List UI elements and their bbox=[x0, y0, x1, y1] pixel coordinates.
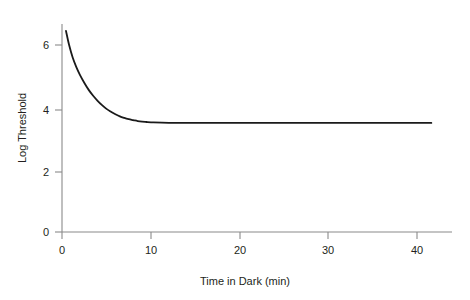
y-tick-label-4: 4 bbox=[43, 104, 49, 116]
chart-figure: 6 4 2 0 0 10 20 30 40 Time in Dark (min)… bbox=[0, 0, 470, 300]
x-axis-title: Time in Dark (min) bbox=[200, 275, 290, 287]
x-tick-label-30: 30 bbox=[322, 244, 334, 256]
x-tick-label-20: 20 bbox=[234, 244, 246, 256]
x-tick-label-10: 10 bbox=[145, 244, 157, 256]
y-axis-title: Log Threshold bbox=[16, 93, 28, 163]
dark-adaptation-line-chart: 6 4 2 0 0 10 20 30 40 Time in Dark (min)… bbox=[0, 0, 470, 300]
y-tick-label-6: 6 bbox=[43, 39, 49, 51]
y-axis-ticks bbox=[55, 45, 62, 232]
y-tick-label-0: 0 bbox=[43, 226, 49, 238]
x-axis-ticks bbox=[62, 232, 417, 239]
y-tick-label-2: 2 bbox=[43, 166, 49, 178]
dark-adaptation-curve bbox=[66, 31, 431, 123]
x-tick-label-0: 0 bbox=[59, 244, 65, 256]
x-tick-label-40: 40 bbox=[411, 244, 423, 256]
